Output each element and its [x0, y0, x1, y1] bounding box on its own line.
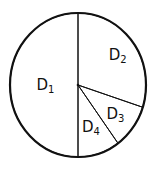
pie-center	[77, 84, 80, 87]
pie-chart: D2D3D4D1	[0, 0, 158, 169]
